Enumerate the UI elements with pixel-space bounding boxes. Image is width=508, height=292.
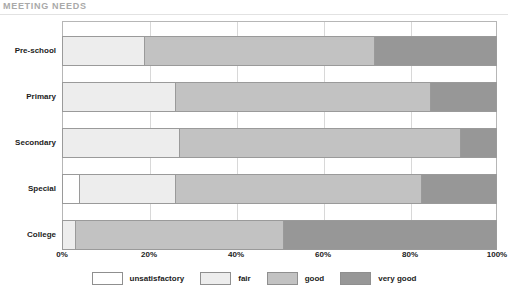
x-axis: 0%20%40%60%80%100% <box>0 250 508 264</box>
legend-swatch-good <box>267 272 298 285</box>
legend-label: very good <box>378 274 416 283</box>
x-axis-tick-label: 20% <box>141 250 157 259</box>
bar-row[interactable] <box>62 82 497 112</box>
bar-row[interactable] <box>62 174 497 204</box>
legend-item-fair[interactable]: fair <box>200 272 250 285</box>
bar-segment-fair[interactable] <box>63 129 180 157</box>
bar-segment-good[interactable] <box>176 175 423 203</box>
bar-row[interactable] <box>62 36 497 66</box>
x-axis-tick-label: 60% <box>315 250 331 259</box>
bar-segment-good[interactable] <box>180 129 461 157</box>
category-label-special: Special <box>0 184 56 193</box>
x-axis-tick-label: 100% <box>487 250 507 259</box>
bar-segment-fair[interactable] <box>63 83 176 111</box>
title-divider <box>0 14 508 15</box>
bar-segment-fair[interactable] <box>63 221 76 249</box>
chart-legend: unsatisfactoryfairgoodvery good <box>0 268 508 288</box>
legend-label: fair <box>238 274 250 283</box>
bar-rows-layer: Pre-schoolPrimarySecondarySpecialCollege <box>0 18 508 250</box>
legend-item-good[interactable]: good <box>267 272 325 285</box>
category-label-college: College <box>0 230 56 239</box>
category-label-pre-school: Pre-school <box>0 46 56 55</box>
bar-segment-fair[interactable] <box>80 175 175 203</box>
bar-segment-good[interactable] <box>176 83 431 111</box>
bar-segment-very-good[interactable] <box>431 83 496 111</box>
x-axis-tick-label: 0% <box>56 250 68 259</box>
chart-plot-wrapper: Pre-schoolPrimarySecondarySpecialCollege <box>0 18 508 250</box>
legend-item-very-good[interactable]: very good <box>340 272 416 285</box>
legend-swatch-very-good <box>340 272 371 285</box>
legend-item-unsatisfactory[interactable]: unsatisfactory <box>92 272 185 285</box>
bar-segment-fair[interactable] <box>63 37 145 65</box>
bar-segment-unsatisfactory[interactable] <box>63 175 80 203</box>
category-label-primary: Primary <box>0 92 56 101</box>
bar-row[interactable] <box>62 128 497 158</box>
bar-segment-good[interactable] <box>76 221 284 249</box>
bar-segment-very-good[interactable] <box>375 37 496 65</box>
category-label-secondary: Secondary <box>0 138 56 147</box>
legend-swatch-fair <box>200 272 231 285</box>
legend-label: unsatisfactory <box>130 274 185 283</box>
legend-swatch-unsatisfactory <box>92 272 123 285</box>
bar-segment-very-good[interactable] <box>461 129 496 157</box>
bar-row[interactable] <box>62 220 497 250</box>
bar-segment-very-good[interactable] <box>284 221 496 249</box>
bar-segment-good[interactable] <box>145 37 374 65</box>
bar-segment-very-good[interactable] <box>422 175 496 203</box>
x-axis-tick-label: 80% <box>402 250 418 259</box>
legend-label: good <box>305 274 325 283</box>
x-axis-tick-label: 40% <box>228 250 244 259</box>
page-title: MEETING NEEDS <box>3 1 87 11</box>
